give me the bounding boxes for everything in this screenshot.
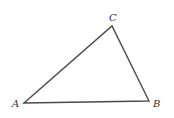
triangle-abc: [24, 26, 149, 103]
vertex-label-a: A: [11, 98, 19, 109]
triangle-diagram: A B C: [0, 0, 174, 118]
vertex-label-b: B: [152, 98, 160, 109]
vertex-label-c: C: [109, 12, 117, 23]
